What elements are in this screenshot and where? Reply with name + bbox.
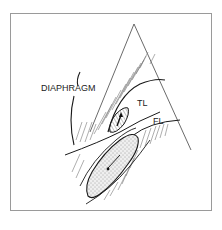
label-false-lumen: FL [153, 116, 164, 126]
false-lumen-dot [107, 168, 110, 171]
scan-wedge [90, 24, 191, 150]
aortic-dissection-diagram: DIAPHRAGM TL FL [0, 0, 222, 230]
label-true-lumen: TL [137, 98, 148, 108]
label-diaphragm: DIAPHRAGM [41, 83, 96, 93]
